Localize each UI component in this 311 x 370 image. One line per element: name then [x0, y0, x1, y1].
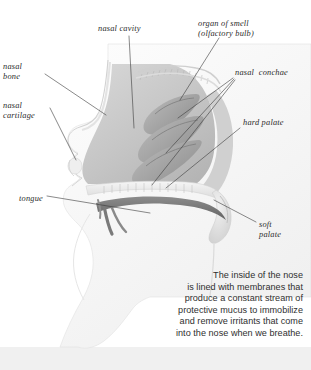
label-tongue: tongue	[19, 194, 43, 204]
label-organ-of-smell: organ of smell (olfactory bulb)	[198, 19, 254, 39]
label-nasal-cartilage: nasal cartilage	[3, 101, 35, 121]
leader-nasal-bone	[45, 74, 106, 115]
label-hard-palate: hard palate	[243, 118, 284, 128]
anatomy-diagram-figure: nasal cavity organ of smell (olfactory b…	[0, 0, 311, 370]
figure-caption: The inside of the nose is lined with mem…	[121, 270, 303, 340]
label-nasal-conchae: nasal conchae	[235, 68, 288, 78]
bottom-band	[0, 347, 311, 370]
label-nasal-cavity: nasal cavity	[98, 24, 141, 34]
label-nasal-bone: nasal bone	[3, 62, 22, 82]
label-soft-palate: soft palate	[259, 220, 281, 240]
